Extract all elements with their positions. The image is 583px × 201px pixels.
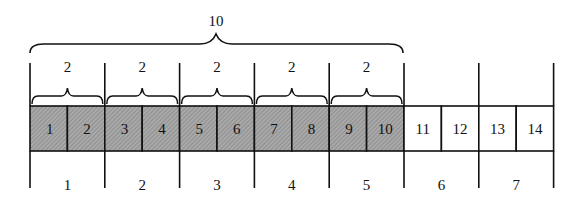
- group-label: 2: [138, 177, 146, 193]
- group-label: 7: [512, 177, 520, 193]
- pair-brace-label: 2: [288, 59, 296, 75]
- cell-label: 10: [378, 121, 393, 137]
- cell-label: 3: [121, 121, 129, 137]
- diagram: 10 22222 1234567891011121314 1234567: [0, 0, 583, 201]
- cell: 11: [404, 106, 441, 151]
- group-label: 3: [213, 177, 221, 193]
- cell: 4: [142, 106, 179, 151]
- cell-label: 12: [453, 121, 468, 137]
- cell-label: 14: [527, 121, 543, 137]
- cell-label: 5: [196, 121, 204, 137]
- cell: 7: [254, 106, 291, 151]
- cell-label: 7: [270, 121, 278, 137]
- cell: 12: [441, 106, 478, 151]
- cell: 13: [479, 106, 516, 151]
- group-label: 1: [64, 177, 72, 193]
- pair-brace-label: 2: [138, 59, 146, 75]
- pair-brace: 2: [331, 59, 402, 104]
- cell-label: 4: [158, 121, 166, 137]
- cell: 5: [180, 106, 217, 151]
- pair-brace-shape: [331, 88, 402, 104]
- pair-brace-shape: [32, 88, 103, 104]
- outer-brace-shape: [30, 34, 403, 53]
- cell-label: 1: [46, 121, 54, 137]
- pair-brace: 2: [182, 59, 253, 104]
- cell: 1: [30, 106, 67, 151]
- group-label: 6: [438, 177, 446, 193]
- pair-brace-shape: [182, 88, 253, 104]
- cell: 6: [217, 106, 254, 151]
- group-label: 4: [288, 177, 296, 193]
- cell: 2: [67, 106, 104, 151]
- cell-label: 11: [415, 121, 429, 137]
- outer-brace: 10: [30, 13, 403, 53]
- pair-braces: 22222: [32, 59, 402, 104]
- pair-brace-shape: [256, 88, 327, 104]
- pair-brace-label: 2: [363, 59, 371, 75]
- cell: 3: [105, 106, 142, 151]
- cell: 8: [292, 106, 329, 151]
- pair-brace: 2: [107, 59, 178, 104]
- pair-brace-label: 2: [64, 59, 72, 75]
- outer-brace-label: 10: [209, 13, 224, 29]
- cell: 9: [329, 106, 366, 151]
- pair-brace: 2: [256, 59, 327, 104]
- cell-label: 8: [308, 121, 316, 137]
- pair-brace: 2: [32, 59, 103, 104]
- pair-brace-label: 2: [213, 59, 221, 75]
- pair-brace-shape: [107, 88, 178, 104]
- cell: 10: [367, 106, 404, 151]
- cell: 14: [516, 106, 553, 151]
- cell-label: 13: [490, 121, 505, 137]
- cell-label: 6: [233, 121, 241, 137]
- cell-row: 1234567891011121314: [30, 106, 554, 151]
- cell-label: 2: [83, 121, 91, 137]
- group-label: 5: [363, 177, 371, 193]
- cell-label: 9: [345, 121, 353, 137]
